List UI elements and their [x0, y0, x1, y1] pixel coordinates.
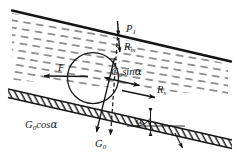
- label-rm: Rm: [124, 42, 136, 53]
- force-diagram-figure: P1 Rm G0sinα Rs F G0cosα G0 α: [0, 0, 237, 156]
- fluid-layer: [0, 0, 237, 110]
- label-p1: P1: [126, 24, 136, 35]
- label-g0: G0: [95, 139, 106, 150]
- label-f: F: [58, 63, 65, 74]
- label-rs: Rs: [157, 85, 166, 96]
- vector-rs: [122, 91, 155, 98]
- label-alpha: α: [136, 116, 143, 126]
- slope-top-edge: [8, 89, 232, 140]
- label-g0-cos-alpha: G0cosα: [25, 119, 58, 131]
- vector-f: [44, 76, 88, 77]
- label-g0-sin-alpha: G0sinα: [111, 66, 142, 78]
